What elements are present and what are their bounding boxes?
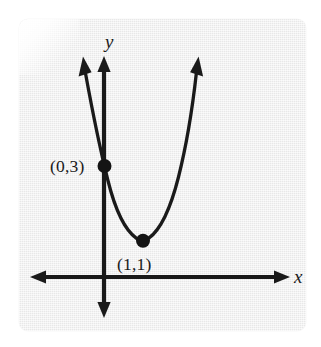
arrow-down-icon	[97, 302, 110, 318]
curve-arrow-up-right-icon	[190, 57, 203, 77]
vertex-label: (1,1)	[117, 254, 152, 274]
arrow-left-icon	[30, 271, 46, 284]
y-intercept-point[interactable]	[98, 159, 112, 173]
horizontal-axis	[30, 271, 290, 284]
figure-container: (0,3) (1,1) y x	[0, 0, 321, 347]
arrow-right-icon	[274, 271, 290, 284]
vertex-point[interactable]	[136, 234, 150, 248]
x-axis-label: x	[293, 266, 303, 287]
parabola-curve	[79, 57, 204, 241]
curve-arrow-up-left-icon	[79, 57, 92, 77]
graph-canvas: (0,3) (1,1) y x	[0, 0, 321, 347]
arrow-up-icon	[97, 56, 110, 72]
y-intercept-label: (0,3)	[50, 156, 85, 176]
y-axis-label: y	[103, 31, 114, 52]
